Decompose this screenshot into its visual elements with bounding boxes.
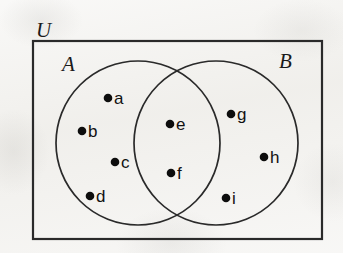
element-e: e <box>166 115 186 134</box>
venn-diagram-canvas: U A B a b c d e f <box>0 0 343 253</box>
element-a: a <box>104 89 124 108</box>
element-h: h <box>260 148 280 167</box>
element-i: i <box>222 189 236 208</box>
element-g: g <box>227 105 247 124</box>
element-label-c: c <box>121 153 130 172</box>
element-label-h: h <box>270 148 279 167</box>
element-dot-i <box>222 194 231 203</box>
set-a-label: A <box>60 52 75 76</box>
element-label-i: i <box>232 189 236 208</box>
element-label-e: e <box>176 115 185 134</box>
element-label-g: g <box>237 105 246 124</box>
element-label-b: b <box>88 122 97 141</box>
universe-label: U <box>36 18 53 42</box>
element-dot-c <box>111 158 120 167</box>
element-label-d: d <box>96 187 105 206</box>
element-d: d <box>86 187 106 206</box>
element-dot-a <box>104 94 113 103</box>
venn-diagram-figure: U A B a b c d e f <box>0 0 343 253</box>
set-b-label: B <box>279 49 292 73</box>
element-dot-f <box>167 169 176 178</box>
element-label-a: a <box>114 89 124 108</box>
element-label-f: f <box>177 164 182 183</box>
element-dot-b <box>78 127 87 136</box>
set-a-circle <box>56 61 220 225</box>
element-b: b <box>78 122 98 141</box>
element-dot-g <box>227 110 236 119</box>
element-dot-d <box>86 192 95 201</box>
set-b-circle <box>134 61 298 225</box>
element-c: c <box>111 153 130 172</box>
element-f: f <box>167 164 182 183</box>
element-dot-e <box>166 120 175 129</box>
element-dot-h <box>260 153 269 162</box>
